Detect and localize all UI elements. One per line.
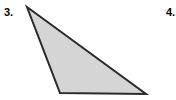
triangle-shape: [27, 7, 146, 94]
figure-canvas: 3. 4.: [0, 0, 176, 100]
problem-number-4: 4.: [166, 7, 175, 18]
triangle-figure: [0, 0, 176, 100]
problem-number-3: 3.: [4, 7, 13, 18]
